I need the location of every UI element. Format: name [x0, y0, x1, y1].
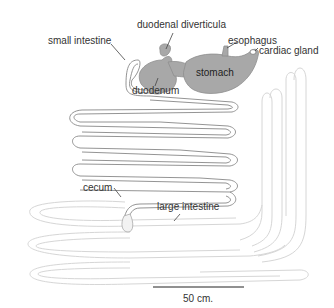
- label-stomach: stomach: [196, 68, 234, 78]
- cardiac-gland-drawing: [250, 50, 256, 55]
- label-duodenum: duodenum: [132, 86, 179, 96]
- label-cecum: cecum: [83, 183, 112, 193]
- scale-bar-label: 50 cm.: [183, 294, 213, 304]
- large-intestine-drawing: [28, 68, 308, 285]
- label-cardiac-gland: cardiac gland: [259, 46, 318, 56]
- label-duodenal-diverticula: duodenal diverticula: [137, 20, 226, 30]
- cecum-drawing: [122, 214, 133, 232]
- label-small-intestine: small intestine: [48, 36, 111, 46]
- label-large-intestine: large intestine: [157, 202, 219, 212]
